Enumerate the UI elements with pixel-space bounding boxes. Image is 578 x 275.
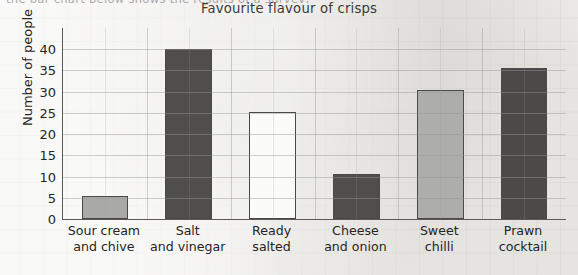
bar-ready-salted — [249, 112, 296, 219]
y-axis-tick-40: 40 — [6, 42, 56, 57]
y-axis-tick-25: 25 — [6, 105, 56, 120]
y-axis-tick-10: 10 — [6, 169, 56, 184]
x-axis-tick-ready-salted: Readysalted — [230, 223, 314, 254]
x-tick-line: cocktail — [481, 239, 565, 255]
y-axis-tick-35: 35 — [6, 63, 56, 78]
gridline-vertical — [482, 28, 483, 219]
bar-salt-and-vinegar — [165, 49, 212, 219]
y-axis-tick-0: 0 — [6, 212, 56, 227]
x-axis-tick-sour-cream-and-chive: Sour creamand chive — [62, 223, 146, 254]
gridline-horizontal — [63, 177, 566, 178]
x-axis-tick-sweet-chilli: Sweetchilli — [397, 223, 481, 254]
bar-prawn-cocktail — [501, 68, 548, 219]
x-tick-line: salted — [230, 239, 314, 255]
x-tick-line: Sweet — [397, 223, 481, 239]
gridline-horizontal — [63, 134, 566, 135]
chart-title: Favourite flavour of crisps — [0, 1, 578, 16]
x-tick-line: Salt — [146, 223, 230, 239]
bar-sweet-chilli — [417, 90, 464, 219]
x-tick-line: and vinegar — [146, 239, 230, 255]
x-tick-line: and onion — [314, 239, 398, 255]
y-axis-tick-5: 5 — [6, 190, 56, 205]
y-axis-tick-30: 30 — [6, 84, 56, 99]
gridline-vertical — [398, 28, 399, 219]
gridline-vertical — [315, 28, 316, 219]
bar-cheese-and-onion — [333, 174, 380, 219]
gridline-vertical — [231, 28, 232, 219]
bar-sour-cream-and-chive — [82, 196, 129, 219]
gridline-horizontal — [63, 198, 566, 199]
x-tick-line: Cheese — [314, 223, 398, 239]
y-axis-tick-15: 15 — [6, 148, 56, 163]
gridline-horizontal — [63, 92, 566, 93]
x-tick-line: Prawn — [481, 223, 565, 239]
x-tick-line: chilli — [397, 239, 481, 255]
y-axis-tick-20: 20 — [6, 127, 56, 142]
plot-area — [62, 28, 566, 220]
x-tick-line: Ready — [230, 223, 314, 239]
x-axis-tick-prawn-cocktail: Prawncocktail — [481, 223, 565, 254]
grid-lines — [63, 28, 566, 219]
gridline-horizontal — [63, 49, 566, 50]
x-axis-tick-cheese-and-onion: Cheeseand onion — [314, 223, 398, 254]
x-tick-line: Sour cream — [62, 223, 146, 239]
y-axis-tick-labels: 0510152025303540 — [0, 28, 56, 219]
x-tick-line: and chive — [62, 239, 146, 255]
gridline-vertical — [105, 28, 106, 219]
gridline-horizontal — [63, 113, 566, 114]
gridline-vertical — [147, 28, 148, 219]
gridline-horizontal — [63, 70, 566, 71]
gridline-horizontal — [63, 155, 566, 156]
x-axis-tick-salt-and-vinegar: Saltand vinegar — [146, 223, 230, 254]
x-axis-tick-labels: Sour creamand chiveSaltand vinegarReadys… — [62, 223, 565, 269]
